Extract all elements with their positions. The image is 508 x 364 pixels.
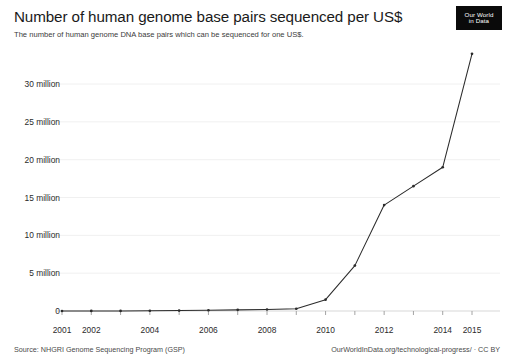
- x-axis-tick-label: 2012: [375, 325, 394, 335]
- x-axis-tick-label: 2006: [199, 325, 218, 335]
- data-point[interactable]: [61, 310, 64, 313]
- y-axis-tick-label: 0: [0, 306, 60, 316]
- line-chart-svg: [0, 0, 508, 364]
- data-series-line: [62, 54, 472, 311]
- x-axis-tick-label: 2010: [316, 325, 335, 335]
- data-point[interactable]: [412, 185, 415, 188]
- y-axis-tick-label: 10 million: [0, 230, 60, 240]
- source-note: Source: NHGRI Genome Sequencing Program …: [14, 345, 185, 354]
- data-point[interactable]: [207, 309, 210, 312]
- y-axis-tick-label: 15 million: [0, 193, 60, 203]
- gridlines: [56, 84, 500, 273]
- y-axis-tick-label: 30 million: [0, 79, 60, 89]
- data-point[interactable]: [441, 166, 444, 169]
- data-point[interactable]: [236, 309, 239, 312]
- data-point[interactable]: [90, 310, 93, 313]
- data-point[interactable]: [266, 308, 269, 311]
- y-axis-tick-label: 5 million: [0, 268, 60, 278]
- data-point[interactable]: [354, 264, 357, 267]
- x-axis-tick-label: 2002: [82, 325, 101, 335]
- x-axis-tick-label: 2015: [463, 325, 482, 335]
- attribution-note[interactable]: OurWorldInData.org/technological-progres…: [331, 345, 500, 354]
- x-axis-tick-label: 2004: [141, 325, 160, 335]
- y-axis-tick-label: 20 million: [0, 155, 60, 165]
- data-point[interactable]: [471, 52, 474, 55]
- y-axis-tick-label: 25 million: [0, 117, 60, 127]
- x-axis-tick-label: 2008: [258, 325, 277, 335]
- x-axis-tick-label: 2001: [53, 325, 72, 335]
- data-point[interactable]: [119, 310, 122, 313]
- data-point[interactable]: [324, 298, 327, 301]
- chart-root: Number of human genome base pairs sequen…: [0, 0, 508, 364]
- x-axis-tick-label: 2014: [433, 325, 452, 335]
- data-point[interactable]: [295, 307, 298, 310]
- data-point[interactable]: [178, 309, 181, 312]
- data-point[interactable]: [149, 309, 152, 312]
- data-point[interactable]: [383, 204, 386, 207]
